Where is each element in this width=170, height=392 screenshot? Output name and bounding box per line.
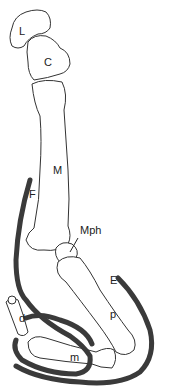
label-p: p [110,308,116,320]
bone-p [57,257,135,355]
bone-M [26,80,70,250]
label-F: F [29,188,36,200]
anatomical-figure: L C M F Mph E p d m [0,0,170,392]
bone-d-tip [8,296,16,304]
label-Mph: Mph [80,224,101,236]
label-M: M [53,164,62,176]
label-C: C [44,56,52,68]
label-d: d [19,312,25,324]
label-m: m [70,351,79,363]
label-L: L [19,25,25,37]
label-E: E [110,274,117,286]
